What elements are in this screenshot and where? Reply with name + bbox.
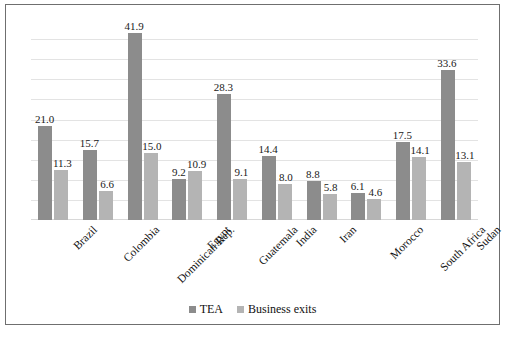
bar-value-label: 41.9 — [124, 20, 143, 32]
bar-value-label: 6.6 — [100, 178, 114, 190]
bar-value-label: 5.8 — [324, 181, 338, 193]
bar-tea: 8.8 — [307, 181, 321, 220]
bar-value-label: 17.5 — [393, 129, 412, 141]
bar-group: 41.915.0 — [120, 19, 165, 220]
bar-group: 28.39.1 — [210, 19, 255, 220]
bar-business-exits: 5.8 — [323, 194, 337, 220]
bar-group: 15.76.6 — [76, 19, 121, 220]
bar-value-label: 33.6 — [437, 57, 456, 69]
bar-value-label: 21.0 — [35, 113, 54, 125]
legend-swatch-icon — [189, 306, 196, 313]
bar-tea: 15.7 — [83, 150, 97, 220]
bar-business-exits: 10.9 — [188, 171, 202, 220]
bar-value-label: 11.3 — [53, 157, 72, 169]
legend-item[interactable]: Business exits — [237, 302, 316, 317]
bar-tea: 17.5 — [396, 142, 410, 220]
category-label-text: Morocco — [388, 222, 428, 262]
bar-value-label: 28.3 — [214, 81, 233, 93]
bar-value-label: 6.1 — [351, 180, 365, 192]
bar-value-label: 8.0 — [279, 171, 293, 183]
bar-tea: 14.4 — [262, 156, 276, 220]
bar-value-label: 8.8 — [306, 168, 320, 180]
bar-tea: 33.6 — [441, 70, 455, 220]
bar-business-exits: 15.0 — [144, 153, 158, 220]
bar-tea: 6.1 — [351, 193, 365, 220]
bar-group: 6.14.6 — [344, 19, 389, 220]
bar-business-exits: 8.0 — [278, 184, 292, 220]
legend-item[interactable]: TEA — [189, 302, 223, 317]
bar-group: 33.613.1 — [433, 19, 478, 220]
legend-label: Business exits — [248, 302, 316, 317]
legend-label: TEA — [200, 302, 223, 317]
bar-business-exits: 4.6 — [367, 199, 381, 220]
bar-value-label: 9.1 — [234, 166, 248, 178]
bar-business-exits: 6.6 — [99, 191, 113, 220]
chart-figure: 21.011.315.76.641.915.09.210.928.39.114.… — [5, 4, 500, 325]
bar-business-exits: 11.3 — [54, 170, 68, 220]
bar-tea: 9.2 — [172, 179, 186, 220]
bar-business-exits: 13.1 — [457, 162, 471, 221]
legend-swatch-icon — [237, 306, 244, 313]
bar-value-label: 14.1 — [410, 144, 429, 156]
category-axis-labels: BrazilColombiaDominican Rep.EgyptGuatema… — [31, 222, 478, 297]
category-label-text: Guatemala — [256, 222, 302, 268]
bar-tea: 41.9 — [128, 33, 142, 220]
bar-tea: 28.3 — [217, 94, 231, 220]
bar-value-label: 14.4 — [259, 143, 278, 155]
bar-business-exits: 9.1 — [233, 179, 247, 220]
bar-value-label: 13.1 — [455, 149, 474, 161]
bar-group: 9.210.9 — [165, 19, 210, 220]
bar-business-exits: 14.1 — [412, 157, 426, 220]
bar-value-label: 4.6 — [369, 186, 383, 198]
category-label-text: Iran — [337, 222, 361, 246]
bar-group: 21.011.3 — [31, 19, 76, 220]
chart-legend: TEABusiness exits — [6, 302, 499, 317]
bar-groups: 21.011.315.76.641.915.09.210.928.39.114.… — [31, 19, 478, 220]
bar-value-label: 9.2 — [172, 166, 186, 178]
bar-tea: 21.0 — [38, 126, 52, 220]
bar-value-label: 15.7 — [80, 137, 99, 149]
bar-group: 8.85.8 — [299, 19, 344, 220]
bar-group: 17.514.1 — [389, 19, 434, 220]
category-label-text: Colombia — [121, 222, 164, 265]
bar-group: 14.48.0 — [255, 19, 300, 220]
bar-value-label: 15.0 — [142, 140, 161, 152]
bar-value-label: 10.9 — [187, 158, 206, 170]
category-label-text: Brazil — [71, 222, 101, 252]
